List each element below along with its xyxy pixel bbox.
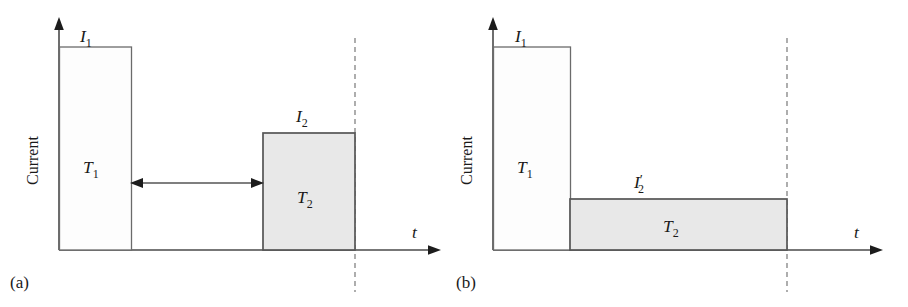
- x-axis-label: t: [412, 222, 418, 242]
- figure-container: Current t I1 I2 T1 T2 (a): [0, 0, 908, 307]
- panel-b: Current t I1 I′2 T1 T2 (b): [454, 0, 908, 307]
- y-axis-label: Current: [458, 136, 475, 185]
- y-axis-arrowhead-icon: [54, 17, 64, 30]
- pulse-2-duration-sub: 2: [673, 226, 679, 240]
- pulse-2-duration-sub: 2: [307, 197, 313, 211]
- pulse-1-duration-sub: 1: [93, 167, 99, 181]
- panel-b-plot: Current t I1 I′2 T1 T2 (b): [454, 0, 908, 307]
- pulse-2-rect: [570, 199, 787, 250]
- x-axis-label: t: [854, 222, 860, 242]
- pulse-1-rect: [494, 47, 571, 250]
- y-axis-label: Current: [24, 136, 41, 185]
- x-axis-arrowhead-icon: [870, 245, 883, 255]
- pulse-2-amplitude-label: I′2: [633, 172, 644, 196]
- pulse-1-duration-sub: 1: [527, 167, 533, 181]
- off-time-gap-arrowhead-right-icon: [251, 178, 264, 188]
- pulse-2-amplitude-label: I2: [295, 106, 308, 130]
- pulse-1-rect: [60, 47, 132, 250]
- panel-b-tag: (b): [456, 273, 476, 292]
- pulse-2-amplitude-sub: 2: [302, 116, 308, 130]
- x-axis-arrowhead-icon: [428, 245, 441, 255]
- panel-a-plot: Current t I1 I2 T1 T2 (a): [0, 0, 454, 307]
- pulse-1-amplitude-sub: 1: [86, 36, 92, 50]
- panel-a: Current t I1 I2 T1 T2 (a): [0, 0, 454, 307]
- pulse-2-amplitude-sub: 2: [638, 182, 644, 196]
- y-axis-arrowhead-icon: [488, 17, 498, 30]
- pulse-1-amplitude-sub: 1: [521, 36, 527, 50]
- panel-a-tag: (a): [10, 273, 29, 292]
- pulse-2-rect: [263, 133, 355, 250]
